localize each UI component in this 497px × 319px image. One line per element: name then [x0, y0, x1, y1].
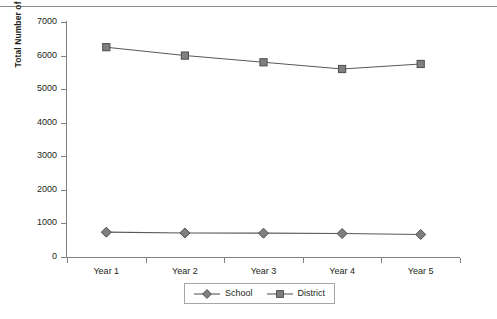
legend-entry-district[interactable]: District — [267, 288, 326, 300]
data-point-school — [180, 228, 190, 238]
data-point-school — [259, 228, 269, 238]
data-point-school — [337, 229, 347, 239]
data-point-district — [181, 52, 188, 59]
data-point-school — [101, 227, 111, 237]
square-marker-icon — [267, 288, 293, 300]
legend-label-school: School — [225, 289, 253, 298]
series-layer — [0, 0, 497, 319]
data-point-district — [339, 65, 346, 72]
diamond-marker-icon — [194, 288, 220, 300]
data-point-school — [416, 230, 426, 240]
legend-entry-school[interactable]: School — [194, 288, 253, 300]
data-point-district — [260, 59, 267, 66]
data-point-district — [417, 60, 424, 67]
legend-label-district: District — [298, 289, 326, 298]
chart-figure: Total Number of Students Enrolled 010002… — [0, 0, 497, 319]
data-point-district — [103, 44, 110, 51]
chart-legend: School District — [184, 283, 335, 304]
